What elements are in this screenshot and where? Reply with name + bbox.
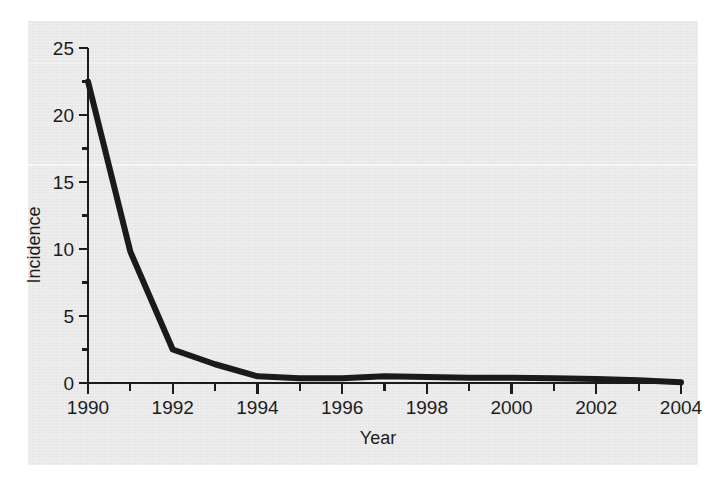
y-tick-label: 5 xyxy=(63,306,74,327)
x-tick-label: 2000 xyxy=(490,397,532,418)
data-series-group xyxy=(88,82,681,383)
y-tick-label: 0 xyxy=(63,373,74,394)
x-tick-label: 1990 xyxy=(67,397,109,418)
y-tick-label: 10 xyxy=(53,239,74,260)
x-axis-tick-labels: 19901992199419961998200020022004 xyxy=(67,397,703,418)
axis-group xyxy=(88,48,681,383)
x-tick-label: 2002 xyxy=(575,397,617,418)
y-axis-title: Incidence xyxy=(24,206,44,283)
x-tick-label: 2004 xyxy=(660,397,703,418)
y-tick-label: 15 xyxy=(53,172,74,193)
x-axis-ticks xyxy=(88,383,681,394)
x-tick-label: 1994 xyxy=(236,397,279,418)
y-tick-label: 25 xyxy=(53,38,74,59)
x-tick-label: 1992 xyxy=(152,397,194,418)
incidence-line xyxy=(88,82,681,383)
y-axis-ticks xyxy=(79,48,88,383)
x-tick-label: 1996 xyxy=(321,397,363,418)
incidence-line-chart: 0510152025 19901992199419961998200020022… xyxy=(0,0,726,481)
y-tick-label: 20 xyxy=(53,105,74,126)
y-axis-tick-labels: 0510152025 xyxy=(53,38,74,394)
x-tick-label: 1998 xyxy=(406,397,448,418)
x-axis-title: Year xyxy=(360,428,396,448)
